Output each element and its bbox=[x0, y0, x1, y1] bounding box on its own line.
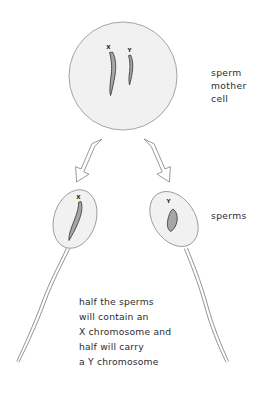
arrow-left bbox=[76, 139, 102, 182]
sperm-x-chromosome-label: X bbox=[76, 194, 81, 200]
mother-cell-label-line-2: mother bbox=[211, 80, 247, 91]
caption-line-3: X chromosome and bbox=[79, 326, 171, 337]
mother-cell-membrane bbox=[69, 22, 177, 130]
sperm-x-tail-line-a bbox=[17, 248, 67, 361]
mother-cell-label-line-3: cell bbox=[211, 93, 228, 104]
sperm-mother-cell-label: sperm mother cell bbox=[211, 67, 247, 104]
sperm-y-tail-line-b bbox=[188, 248, 229, 361]
sperms-label: sperms bbox=[211, 210, 247, 221]
caption-line-4: half will carry bbox=[79, 341, 144, 352]
caption-line-5: a Y chromosome bbox=[79, 356, 159, 367]
caption-block: half the sperms will contain an X chromo… bbox=[79, 296, 171, 367]
sperm-mother-cell: X Y bbox=[69, 22, 177, 130]
sperm-x-tail-line-b bbox=[19, 249, 70, 362]
x-chromosome-label: X bbox=[106, 44, 111, 50]
sperm-formation-diagram: X Y sperm mother cell bbox=[0, 0, 271, 403]
caption-line-2: will contain an bbox=[79, 311, 149, 322]
mother-cell-label-line-1: sperm bbox=[211, 67, 242, 78]
division-arrows bbox=[76, 139, 171, 182]
arrow-right bbox=[144, 139, 170, 182]
caption-line-1: half the sperms bbox=[79, 296, 154, 307]
sperm-y-tail-line-a bbox=[185, 249, 227, 362]
diagram-canvas: X Y sperm mother cell bbox=[0, 0, 271, 403]
